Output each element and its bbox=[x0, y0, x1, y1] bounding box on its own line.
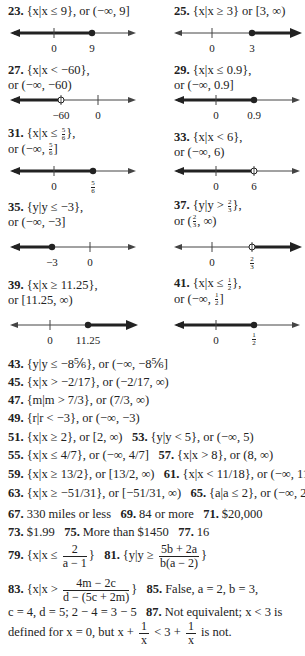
answer-row-73-77: 73.$1.99 75.More than $1450 77.16 bbox=[8, 525, 209, 539]
number-line-39 bbox=[8, 318, 138, 332]
answer-29: 29.{x|x ≤ 0.9}, or (−∞, 0.9] bbox=[174, 63, 252, 93]
answer-row-51-53: 51.{x|x ≥ 2}, or [2, ∞) 53.{y|y < 5}, or… bbox=[8, 430, 254, 444]
number-line-27 bbox=[8, 93, 138, 107]
answer-49: 49.{r|r < −3}, or (−∞, −3) bbox=[8, 411, 140, 425]
answer-39: 39.{x|x ≥ 11.25}, or [11.25, ∞) bbox=[8, 278, 98, 308]
answer-row-85-87: c = 4, d = 5; 2 − 4 = 3 − 5 87.Not equiv… bbox=[8, 605, 282, 619]
answer-row-67-71: 67.330 miles or less 69.84 or more 71.$2… bbox=[8, 507, 262, 521]
answer-33: 33.{x|x < 6}, or (−∞, 6) bbox=[174, 130, 242, 160]
answer-47: 47.{m|m > 7/3}, or (7/3, ∞) bbox=[8, 393, 149, 407]
answer-37: 37.{y|y > 23}, or (23, ∞) bbox=[174, 198, 242, 229]
number-line-41 bbox=[172, 318, 302, 332]
answer-23: 23.{x|x ≤ 9}, or (−∞, 9] bbox=[8, 4, 130, 19]
number-line-25 bbox=[172, 26, 302, 40]
answer-row-59-61: 59.{x|x ≥ 13/2}, or [13/2, ∞) 61.{x|x < … bbox=[8, 467, 305, 481]
answer-row-63-65: 63.{x|x ≥ −51/31}, or [−51/31, ∞) 65.{a|… bbox=[8, 486, 305, 500]
answer-row-79-81: 79.{x|x ≤ 2a − 1} 81.{y|y ≥ 5b + 2ab(a −… bbox=[8, 541, 207, 570]
answer-87-continued: defined for x = 0, but x + 1x < 3 + 1x i… bbox=[8, 618, 232, 647]
answer-row-55-57: 55.{x|x ≤ 4/7}, or (−∞, 4/7] 57.{x|x > 8… bbox=[8, 448, 273, 462]
answer-41: 41.{x|x ≤ 12}, or (−∞, 12] bbox=[174, 276, 241, 307]
answer-27: 27.{x|x < −60}, or (−∞, −60) bbox=[8, 63, 90, 93]
answer-45: 45.{x|x > −2/17}, or (−2/17, ∞) bbox=[8, 375, 169, 389]
answer-row-83-85: 83.{x|x > 4m − 2cd − (5c + 2m)} 85.False… bbox=[8, 575, 258, 604]
number-line-35 bbox=[8, 240, 138, 254]
number-line-37 bbox=[172, 240, 302, 254]
answer-43: 43.{y|y ≤ −8⅚}, or (−∞, −8⅚] bbox=[8, 357, 168, 371]
number-line-31 bbox=[8, 164, 138, 178]
number-line-33 bbox=[172, 164, 302, 178]
answer-31: 31.{x|x ≤ 56}, or (−∞, 56] bbox=[8, 126, 75, 157]
number-line-29 bbox=[172, 93, 302, 107]
answer-25: 25.{x|x ≥ 3} or [3, ∞) bbox=[174, 4, 285, 19]
number-line-23 bbox=[8, 26, 138, 40]
answer-35: 35.{y|y ≤ −3}, or (−∞, −3] bbox=[8, 200, 83, 230]
